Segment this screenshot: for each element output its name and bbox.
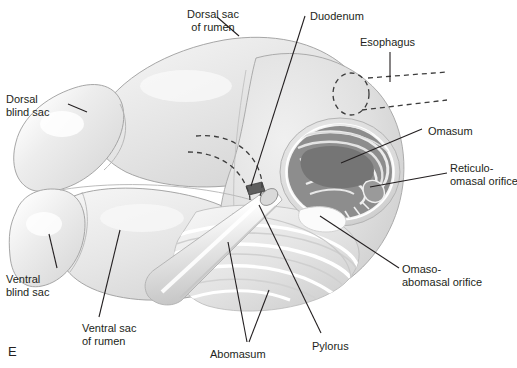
label-dorsal-blind-sac: Dorsal blind sac bbox=[6, 93, 49, 119]
label-ventral-sac-of-rumen: Ventral sac of rumen bbox=[82, 322, 136, 348]
esophagus-dashed-line-upper bbox=[368, 72, 447, 78]
highlight-dorsal-sac bbox=[140, 70, 232, 102]
panel-letter: E bbox=[8, 344, 17, 359]
label-reticulo-omasal-orifice: Reticulo- omasal orifice bbox=[450, 162, 517, 188]
highlight-ventral-blind-sac bbox=[26, 212, 62, 236]
label-omaso-abomasal-orifice: Omaso- abomasal orifice bbox=[402, 263, 482, 289]
label-omasum: Omasum bbox=[428, 125, 473, 138]
highlight-ventral-sac bbox=[100, 204, 184, 232]
label-pylorus: Pylorus bbox=[312, 340, 349, 353]
label-abomasum: Abomasum bbox=[210, 348, 266, 361]
ruminant-stomach-figure: Dorsal sac of rumen Duodenum Esophagus D… bbox=[0, 0, 517, 368]
label-esophagus: Esophagus bbox=[360, 36, 415, 49]
label-dorsal-sac-of-rumen: Dorsal sac of rumen bbox=[176, 8, 250, 34]
illustration-canvas bbox=[0, 0, 517, 368]
reticulo-omasal-orifice-shape bbox=[363, 180, 384, 202]
label-duodenum: Duodenum bbox=[310, 10, 364, 23]
label-ventral-blind-sac: Ventral blind sac bbox=[6, 273, 49, 299]
